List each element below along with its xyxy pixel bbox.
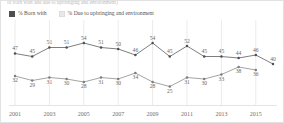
legend-item-born-with[interactable]: % Born with (9, 10, 47, 17)
data-point (255, 54, 257, 57)
data-label: 54 (81, 35, 87, 41)
data-label: 31 (98, 79, 104, 85)
x-axis-tick-label: 2005 (78, 110, 90, 118)
data-label: 31 (47, 79, 53, 85)
data-point (65, 46, 68, 49)
data-label: 25 (167, 88, 173, 94)
legend-item-label: % Due to upbringing and environment (68, 10, 154, 17)
x-axis-tick-label: 2013 (215, 110, 227, 118)
series-line-0 (15, 43, 273, 64)
data-label: 51 (47, 39, 53, 45)
data-label: 34 (133, 74, 139, 80)
data-label: 44 (236, 50, 242, 56)
data-point (220, 55, 223, 58)
data-point (31, 55, 34, 58)
x-axis-tick-label: 2003 (43, 110, 55, 118)
data-label: 28 (81, 83, 87, 89)
x-axis-tick-label: 2007 (112, 110, 124, 118)
data-point (186, 45, 189, 48)
data-point (14, 52, 17, 55)
data-label: 45 (219, 48, 225, 54)
data-label: 33 (219, 76, 225, 82)
data-label: 51 (64, 39, 70, 45)
data-point (272, 63, 275, 66)
data-label: 30 (201, 80, 207, 86)
data-label: 46 (253, 47, 259, 53)
data-label: 32 (12, 77, 18, 83)
data-label: 47 (12, 45, 18, 51)
legend-item-upbringing[interactable]: % Due to upbringing and environment (59, 10, 154, 17)
data-point (83, 42, 86, 45)
legend-swatch-icon (59, 11, 65, 17)
data-label: 51 (98, 39, 104, 45)
data-label: 40 (270, 56, 276, 62)
data-label: 54 (150, 35, 156, 41)
data-label: 50 (115, 41, 121, 47)
chart-canvas: 4745515154515046544552454544464032293130… (1, 20, 284, 105)
data-label: 28 (150, 83, 156, 89)
data-label: 31 (184, 79, 190, 85)
chart-figure: of born with and due to upbringing and e… (0, 0, 284, 123)
data-point (48, 46, 51, 49)
data-label: 45 (167, 48, 173, 54)
data-point (151, 42, 154, 45)
data-label: 38 (236, 68, 242, 74)
top-caption: of born with and due to upbringing and e… (7, 0, 279, 6)
data-point (100, 46, 103, 49)
x-axis: 20012003200520072009201120132015 (1, 105, 284, 123)
data-label: 30 (115, 80, 121, 86)
x-axis-tick-label: 2001 (9, 110, 21, 118)
data-point (237, 57, 240, 60)
data-point (134, 54, 137, 57)
plot-area: 4745515154515046544552454544464032293130… (1, 20, 284, 105)
axis-rule (9, 105, 277, 106)
data-label: 46 (133, 47, 139, 53)
x-axis-tick-label: 2011 (181, 110, 193, 118)
data-label: 36 (253, 71, 259, 77)
data-label: 45 (201, 48, 207, 54)
chart-legend: % Born with % Due to upbringing and envi… (9, 8, 154, 19)
data-label: 52 (184, 38, 190, 44)
data-point (203, 55, 206, 58)
data-point (117, 48, 120, 51)
legend-swatch-icon (9, 11, 15, 17)
data-label: 45 (29, 48, 35, 54)
x-axis-tick-label: 2015 (250, 110, 262, 118)
data-point (169, 55, 172, 58)
legend-item-label: % Born with (18, 10, 47, 17)
x-axis-tick-label: 2009 (147, 110, 159, 118)
data-label: 29 (29, 82, 35, 88)
data-label: 30 (64, 80, 70, 86)
